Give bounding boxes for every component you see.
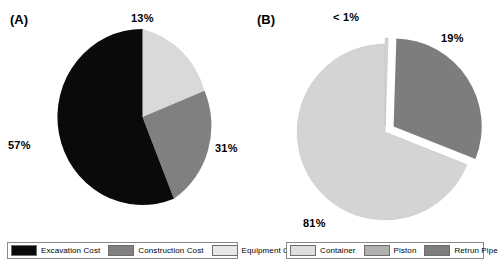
pie-a-label-equipment: 13% xyxy=(131,12,154,24)
pie-b-label-container: 81% xyxy=(303,217,326,229)
pie-chart-b xyxy=(287,32,487,222)
pie-b-slice-retrunpipe-group xyxy=(385,38,388,126)
legend-a-item-construction[interactable]: Construction Cost xyxy=(108,243,211,258)
legend-a: Excavation Cost Construction Cost Equipm… xyxy=(7,242,238,259)
pie-b-label-retrunpipe: < 1% xyxy=(333,11,359,23)
legend-swatch-piston-icon xyxy=(364,245,390,256)
pie-a-label-excavation: 57% xyxy=(8,139,31,151)
legend-swatch-excavation-icon xyxy=(11,245,37,256)
legend-b-item-container[interactable]: Container xyxy=(290,243,364,258)
legend-a-label-excavation: Excavation Cost xyxy=(41,246,100,255)
legend-a-item-excavation[interactable]: Excavation Cost xyxy=(11,243,108,258)
pie-a-label-construction: 31% xyxy=(215,142,238,154)
legend-a-label-construction: Construction Cost xyxy=(138,246,203,255)
legend-b: Container Piston Retrun Pipe xyxy=(286,242,484,259)
legend-b-label-container: Container xyxy=(320,246,356,255)
legend-b-item-retrunpipe[interactable]: Retrun Pipe xyxy=(424,243,499,258)
legend-b-label-piston: Piston xyxy=(394,246,417,255)
pie-chart-a xyxy=(55,28,230,206)
pie-a-svg xyxy=(55,28,230,206)
legend-swatch-container-icon xyxy=(290,245,316,256)
panel-a: (A) 13% 31% 57% Excavation Cost Co xyxy=(0,0,245,268)
legend-swatch-retrunpipe-icon xyxy=(424,245,450,256)
legend-b-item-piston[interactable]: Piston xyxy=(364,243,425,258)
pie-b-slice-retrunpipe xyxy=(385,38,388,126)
pie-b-label-piston: 19% xyxy=(441,32,464,44)
legend-b-label-retrunpipe: Retrun Pipe xyxy=(454,246,497,255)
panel-b: (B) < 1% 19% 81% Container xyxy=(245,0,490,268)
pie-b-svg xyxy=(287,32,487,222)
panel-b-label: (B) xyxy=(257,12,275,27)
legend-swatch-construction-icon xyxy=(108,245,134,256)
panel-a-label: (A) xyxy=(10,12,28,27)
legend-swatch-equipment-icon xyxy=(212,245,238,256)
